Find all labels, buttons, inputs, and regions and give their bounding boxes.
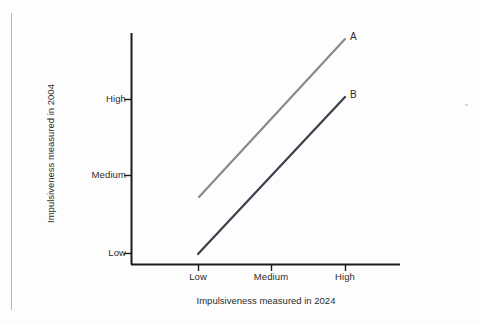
y-axis-title: Impulsiveness measured in 2004 — [45, 59, 56, 249]
series-label-b: B — [350, 89, 357, 100]
y-tick-label-low: Low — [86, 247, 126, 258]
y-tick-label-high: High — [86, 93, 126, 104]
x-tick-label-medium: Medium — [246, 271, 296, 282]
y-tick-label-medium: Medium — [76, 169, 126, 180]
x-tick-label-low: Low — [178, 271, 218, 282]
series-label-a: A — [350, 31, 357, 42]
series-line-a — [199, 39, 345, 197]
x-tick-label-high: High — [325, 271, 365, 282]
figure-container: Low Medium High Low Medium High Impulsiv… — [0, 0, 479, 324]
chart-canvas — [0, 0, 479, 324]
x-axis-title: Impulsiveness measured in 2024 — [131, 295, 401, 306]
